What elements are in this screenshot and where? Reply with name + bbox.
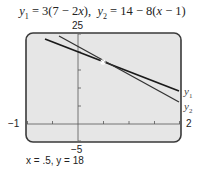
legend-y2: y2 xyxy=(184,100,192,115)
screen-frame xyxy=(26,33,181,142)
xmin-label: −1 xyxy=(8,118,19,129)
calculator-screen xyxy=(0,0,205,172)
legend-y1: y1 xyxy=(184,85,192,100)
trace-readout: x = .5, y = 18 xyxy=(26,155,84,166)
xmax-label: 2 xyxy=(186,118,192,129)
ymin-label: −5 xyxy=(71,144,82,155)
